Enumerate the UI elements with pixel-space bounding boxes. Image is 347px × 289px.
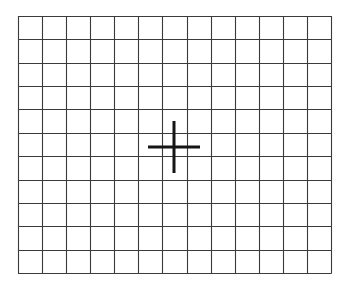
crosshair-icon	[148, 121, 200, 173]
grid-diagram	[0, 0, 347, 289]
